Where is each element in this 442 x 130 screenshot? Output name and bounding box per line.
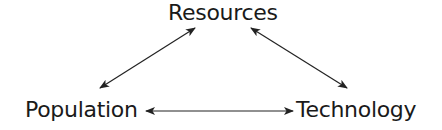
arrow-resources-technology	[251, 28, 347, 88]
node-technology: Technology	[296, 97, 416, 123]
arrow-resources-population	[100, 28, 195, 88]
node-resources: Resources	[168, 0, 278, 26]
node-population: Population	[25, 97, 138, 123]
